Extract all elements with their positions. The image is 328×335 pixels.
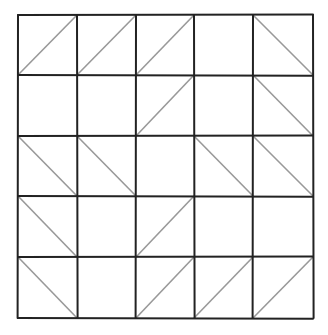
cell-diagonal-r2-c5 xyxy=(253,75,313,136)
grid-vertical-line xyxy=(194,15,195,318)
diagonal-grid xyxy=(0,0,328,335)
cell-diagonal-r5-c3 xyxy=(136,257,194,318)
cell-diagonal-r4-c3 xyxy=(136,196,194,257)
grid-horizontal-line xyxy=(18,75,313,76)
cell-diagonal-r4-c1 xyxy=(18,196,77,257)
cell-diagonal-r1-c2 xyxy=(77,15,136,75)
grid-horizontal-line xyxy=(18,257,313,258)
grid-vertical-line xyxy=(77,15,78,318)
cell-diagonal-r2-c3 xyxy=(136,75,194,136)
cell-diagonal-r3-c1 xyxy=(18,136,77,196)
grid-vertical-line xyxy=(313,15,314,318)
cell-diagonal-r5-c5 xyxy=(253,257,313,318)
cell-diagonal-r5-c1 xyxy=(18,257,77,318)
cell-diagonal-r3-c4 xyxy=(194,136,253,196)
cell-diagonal-r3-c2 xyxy=(77,136,136,196)
cell-diagonal-r1-c1 xyxy=(18,15,77,75)
grid-horizontal-line xyxy=(18,196,313,197)
cell-diagonal-r5-c4 xyxy=(194,257,253,318)
grid-horizontal-line xyxy=(18,318,313,319)
cell-diagonal-r1-c3 xyxy=(136,15,194,75)
cell-diagonal-r3-c5 xyxy=(253,136,313,196)
cell-diagonal-r1-c5 xyxy=(253,15,313,75)
grid-horizontal-line xyxy=(18,136,313,137)
grid-horizontal-line xyxy=(18,15,313,16)
